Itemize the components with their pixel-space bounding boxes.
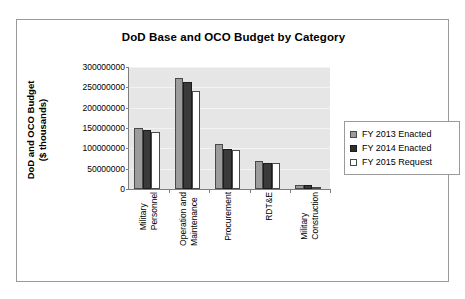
y-axis-title: DoD and OCO Budget ($ thousands) bbox=[25, 64, 53, 196]
y-axis-tick-labels: 0500000001000000001500000002000000002500… bbox=[55, 61, 125, 185]
bar-group bbox=[290, 67, 330, 189]
bar[interactable] bbox=[223, 149, 232, 189]
chart-legend: FY 2013 EnactedFY 2014 EnactedFY 2015 Re… bbox=[344, 121, 460, 175]
y-axis-tick-label: 200000000 bbox=[55, 103, 125, 113]
x-axis-category-label: MilitaryConstruction bbox=[289, 192, 329, 278]
legend-item[interactable]: FY 2015 Request bbox=[350, 155, 455, 169]
bar[interactable] bbox=[151, 132, 160, 189]
bar-group bbox=[209, 67, 249, 189]
legend-item[interactable]: FY 2013 Enacted bbox=[350, 127, 455, 141]
x-category-line1: Military bbox=[298, 213, 308, 240]
y-axis-title-line2: ($ thousands) bbox=[37, 64, 49, 196]
bar[interactable] bbox=[272, 163, 281, 189]
x-category-line2: Maintenance bbox=[188, 192, 199, 246]
bar[interactable] bbox=[183, 82, 192, 189]
x-axis-tickmark bbox=[330, 189, 331, 193]
legend-swatch-icon bbox=[350, 145, 357, 152]
x-category-line2: Construction bbox=[309, 192, 320, 240]
bar[interactable] bbox=[134, 128, 143, 189]
y-axis-tick-label: 150000000 bbox=[55, 123, 125, 133]
x-category-line2: Personnel bbox=[148, 192, 159, 230]
x-category-line1: Operation and bbox=[178, 192, 188, 246]
bar-group bbox=[250, 67, 290, 189]
x-axis-category-label: MilitaryPersonnel bbox=[128, 192, 168, 278]
x-axis-category-label: Operation andMaintenance bbox=[168, 192, 208, 278]
y-axis-title-line1: DoD and OCO Budget bbox=[25, 81, 36, 180]
bar[interactable] bbox=[263, 163, 272, 189]
y-axis-tick-label: 300000000 bbox=[55, 62, 125, 72]
x-category-line1: RDT&E bbox=[263, 192, 273, 221]
bar[interactable] bbox=[175, 78, 184, 189]
bar[interactable] bbox=[255, 161, 264, 189]
bar[interactable] bbox=[215, 144, 224, 189]
bar[interactable] bbox=[295, 185, 304, 189]
y-axis-tick-label: 100000000 bbox=[55, 143, 125, 153]
x-axis-category-label: Procurement bbox=[208, 192, 248, 278]
plot-area bbox=[128, 67, 330, 190]
bar[interactable] bbox=[312, 187, 321, 189]
y-axis-tick-label: 0 bbox=[55, 184, 125, 194]
bar[interactable] bbox=[304, 185, 313, 189]
chart-title: DoD Base and OCO Budget by Category bbox=[17, 31, 450, 43]
x-category-line1: Military bbox=[138, 203, 148, 230]
x-axis-category-labels: MilitaryPersonnelOperation andMaintenanc… bbox=[128, 192, 329, 278]
bar-group bbox=[169, 67, 209, 189]
bar[interactable] bbox=[192, 91, 201, 189]
y-axis-tickmark bbox=[126, 189, 129, 190]
bar[interactable] bbox=[232, 150, 241, 189]
legend-item-label: FY 2013 Enacted bbox=[362, 129, 431, 139]
y-axis-tick-label: 50000000 bbox=[55, 164, 125, 174]
legend-item-label: FY 2015 Request bbox=[362, 157, 432, 167]
legend-swatch-icon bbox=[350, 131, 357, 138]
bar-group bbox=[129, 67, 169, 189]
legend-item[interactable]: FY 2014 Enacted bbox=[350, 141, 455, 155]
bar[interactable] bbox=[143, 130, 152, 189]
legend-item-label: FY 2014 Enacted bbox=[362, 143, 431, 153]
chart-container: DoD Base and OCO Budget by Category DoD … bbox=[16, 19, 449, 282]
x-axis-category-label: RDT&E bbox=[249, 192, 289, 278]
legend-swatch-icon bbox=[350, 159, 357, 166]
x-category-line1: Procurement bbox=[223, 192, 233, 241]
y-axis-tick-label: 250000000 bbox=[55, 82, 125, 92]
